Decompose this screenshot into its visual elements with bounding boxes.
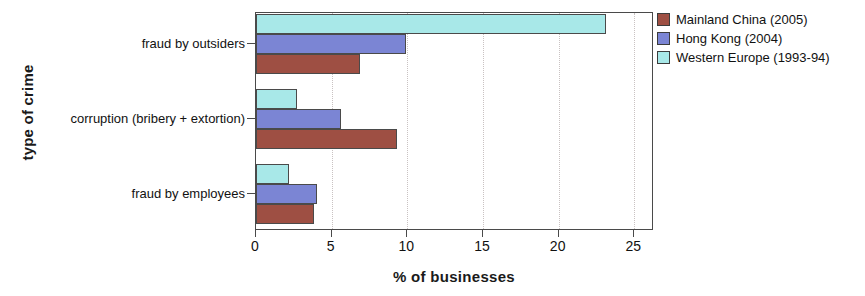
x-tick-mark: [558, 230, 559, 237]
legend-item: Hong Kong (2004): [657, 30, 830, 47]
x-tick-mark: [331, 230, 332, 237]
y-tick-label: corruption (bribery + extortion): [71, 111, 246, 126]
y-tick-mark: [247, 118, 255, 119]
legend-label: Western Europe (1993-94): [676, 50, 830, 65]
gridline: [407, 13, 408, 229]
legend-label: Mainland China (2005): [676, 12, 808, 27]
x-tick-mark: [482, 230, 483, 237]
x-tick-label: 15: [462, 238, 502, 254]
gridline: [634, 13, 635, 229]
gridline: [483, 13, 484, 229]
legend-swatch-icon: [657, 13, 670, 26]
gridline: [559, 13, 560, 229]
y-tick-mark: [247, 193, 255, 194]
y-axis-title: type of crime: [19, 48, 36, 178]
x-tick-label: 10: [386, 238, 426, 254]
plot-area: [255, 12, 653, 230]
x-axis-title: % of businesses: [255, 268, 653, 285]
legend-swatch-icon: [657, 32, 670, 45]
legend-item: Western Europe (1993-94): [657, 49, 830, 66]
bar: [256, 129, 397, 149]
y-tick-mark: [247, 43, 255, 44]
bar: [256, 89, 297, 109]
y-tick-label: fraud by employees: [132, 186, 245, 201]
legend-label: Hong Kong (2004): [676, 31, 782, 46]
bar: [256, 34, 406, 54]
x-tick-label: 5: [311, 238, 351, 254]
bar: [256, 54, 360, 74]
bar: [256, 14, 606, 34]
bar: [256, 109, 341, 129]
x-tick-label: 0: [235, 238, 275, 254]
x-tick-label: 25: [613, 238, 653, 254]
legend-swatch-icon: [657, 51, 670, 64]
x-tick-mark: [255, 230, 256, 237]
bar: [256, 204, 314, 224]
bar-chart: type of crime 0510152025 fraud by outsid…: [0, 0, 865, 296]
bar: [256, 184, 317, 204]
bar: [256, 164, 289, 184]
x-tick-label: 20: [538, 238, 578, 254]
y-tick-label: fraud by outsiders: [142, 36, 245, 51]
legend: Mainland China (2005)Hong Kong (2004)Wes…: [657, 11, 830, 68]
legend-item: Mainland China (2005): [657, 11, 830, 28]
x-tick-mark: [406, 230, 407, 237]
x-tick-mark: [633, 230, 634, 237]
